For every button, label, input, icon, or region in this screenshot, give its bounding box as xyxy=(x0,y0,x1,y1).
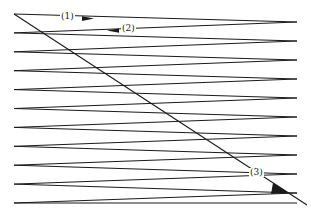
figure-label-2: (2) xyxy=(121,24,136,33)
arrow-down-right-icon xyxy=(271,183,288,194)
figure-label-1: (1) xyxy=(60,12,75,21)
figure-label-3: (3) xyxy=(249,168,264,177)
figure-container: (1) (2) (3) xyxy=(0,0,311,215)
arrow-right-on-segment-1 xyxy=(82,16,94,21)
diagram-canvas xyxy=(0,0,311,215)
arrow-right-icon xyxy=(82,16,94,21)
arrow-down-right-on-diagonal xyxy=(271,183,288,194)
